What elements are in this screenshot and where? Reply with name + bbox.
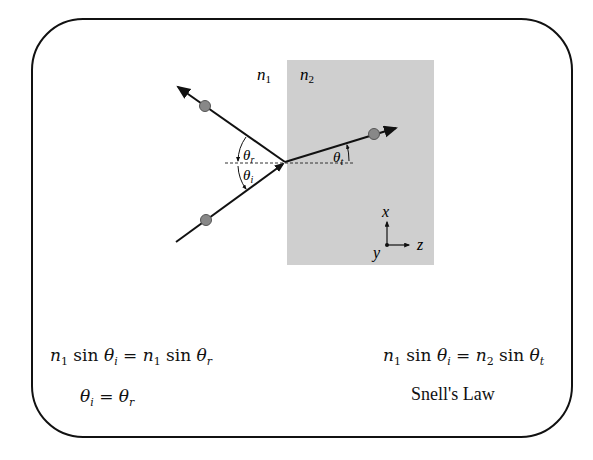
snell-equation: n1 sin θi = n2 sin θt (383, 345, 544, 368)
y-axis-label: y (371, 244, 381, 262)
reflection-equation: n1 sin θi = n1 sin θr (50, 345, 212, 368)
z-axis-label: z (416, 236, 424, 253)
theta-r-label: θr (243, 147, 254, 165)
x-axis-label: x (381, 203, 389, 220)
theta-i-label: θi (243, 167, 253, 185)
reflection-law: θi = θr (80, 386, 134, 409)
n1-label: n1 (257, 65, 271, 85)
reflected-particle (200, 101, 211, 112)
transmitted-particle (369, 129, 380, 140)
incident-ray (176, 164, 283, 242)
y-axis-dot (385, 243, 389, 247)
medium-2-region (287, 60, 434, 265)
snell-caption: Snell's Law (411, 384, 495, 405)
reflected-ray (178, 87, 285, 162)
incident-particle (201, 215, 212, 226)
